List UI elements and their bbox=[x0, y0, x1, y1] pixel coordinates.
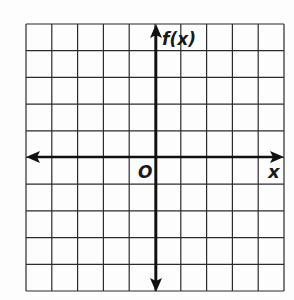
x-axis-label: x bbox=[267, 161, 281, 182]
coordinate-plane: f(x) O x bbox=[0, 0, 294, 300]
origin-label: O bbox=[138, 162, 152, 182]
y-axis-label: f(x) bbox=[162, 29, 196, 49]
